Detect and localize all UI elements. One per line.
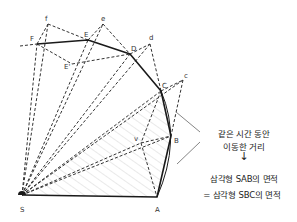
label-c: c <box>184 72 188 80</box>
label-F: F <box>30 35 34 43</box>
down-arrow-icon: ↓ <box>236 150 252 163</box>
label-D: D <box>131 45 136 53</box>
label-E-prime: E' <box>64 63 70 71</box>
label-e: e <box>101 15 105 23</box>
annotation-area-sab: 삼각형 SAB의 면적 <box>196 172 292 184</box>
label-S: S <box>20 206 25 214</box>
label-C: C <box>162 82 167 90</box>
label-d: d <box>149 34 153 42</box>
leader-lines <box>176 112 200 164</box>
sun-mark <box>18 191 26 195</box>
annotation-equal-time-distance-line1: 같은 시간 동안 <box>204 127 284 139</box>
label-B: B <box>174 137 179 145</box>
annotation-area-sbc: = 삼각형 SBC의 면적 <box>192 188 292 200</box>
label-v: v <box>134 135 138 143</box>
label-A: A <box>155 206 160 214</box>
label-f: f <box>45 15 48 23</box>
label-E: E <box>84 31 88 39</box>
